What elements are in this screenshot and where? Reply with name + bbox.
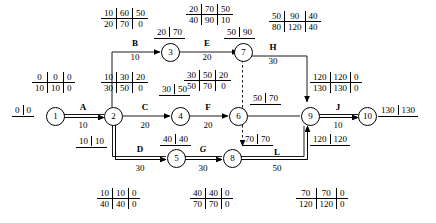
cell-ff: 0	[216, 81, 232, 92]
cell-ef: 90	[285, 11, 306, 22]
cell-ls: 130	[310, 83, 330, 94]
node-latest-time: 120	[331, 134, 350, 144]
activity-label-A: A	[72, 102, 94, 112]
node-time-pair-5: 4040	[160, 134, 191, 146]
node-5[interactable]: 5	[167, 149, 186, 168]
cell-lf: 50	[117, 83, 133, 94]
node-6[interactable]: 6	[229, 107, 248, 126]
cell-tf: 0	[64, 72, 75, 83]
activity-duration-D: 30	[129, 163, 151, 173]
node-latest-time: 130	[399, 105, 418, 115]
node-1[interactable]: 1	[46, 107, 65, 126]
cell-ff: 0	[337, 199, 348, 210]
node-7[interactable]: 7	[234, 43, 253, 62]
cell-ef: 50	[200, 70, 216, 81]
node-time-pair-4: 3050	[159, 84, 190, 96]
node-10[interactable]: 10	[358, 107, 377, 126]
node-8[interactable]: 8	[223, 149, 242, 168]
node-latest-time: 70	[266, 93, 280, 103]
cell-tf: 50	[218, 4, 234, 15]
activity-label-B: B	[124, 38, 146, 48]
cell-ls: 40	[186, 15, 202, 26]
activity-label-D: D	[129, 144, 151, 154]
node-latest-time: 50	[175, 84, 189, 94]
node-earliest-time: 70	[243, 134, 258, 144]
cell-es: 120	[310, 72, 330, 83]
cell-ls: 70	[190, 199, 206, 210]
activity-label-G: G	[192, 144, 214, 154]
cell-ff: 0	[129, 199, 140, 210]
activity-label-F: F	[197, 102, 219, 112]
node-4[interactable]: 4	[171, 107, 190, 126]
cell-ff: 40	[305, 22, 321, 33]
activity-table-E: 20 70 50 40 90 10	[186, 4, 233, 25]
node-latest-time: 0	[24, 105, 34, 115]
node-earliest-time: 10	[77, 136, 92, 146]
node-latest-time: 70	[170, 27, 184, 37]
cell-ef: 70	[316, 188, 337, 199]
cell-es: 10	[97, 188, 113, 199]
node-earliest-time: 130	[379, 105, 399, 115]
cell-ef: 70	[202, 4, 218, 15]
cell-lf: 10	[48, 83, 64, 94]
node-earliest-time: 30	[160, 84, 175, 94]
activity-duration-F: 20	[197, 120, 219, 130]
cell-tf: 40	[305, 11, 321, 22]
cell-ls: 10	[32, 83, 48, 94]
cell-ls: 80	[269, 22, 285, 33]
activity-duration-L: 50	[266, 163, 288, 173]
node-time-pair-10: 130130	[378, 105, 418, 117]
cell-ff: 0	[351, 83, 362, 94]
cell-ff: 0	[133, 83, 149, 94]
node-earliest-time: 50	[225, 27, 240, 37]
cell-lf: 90	[202, 15, 218, 26]
node-earliest-time: 20	[155, 27, 170, 37]
cell-ef: 30	[117, 72, 133, 83]
cell-ls: 40	[97, 199, 113, 210]
cell-es: 70	[296, 188, 316, 199]
cell-ls: 30	[101, 83, 117, 94]
activity-label-L: L	[266, 147, 288, 157]
activity-table-F: 30 50 20 50 70 0	[184, 70, 231, 91]
node-3[interactable]: 3	[161, 43, 180, 62]
activity-table-A: 0 0 0 10 10 0	[32, 72, 75, 93]
node-9[interactable]: 9	[301, 107, 320, 126]
cell-lf: 70	[117, 19, 133, 30]
cell-lf: 70	[200, 81, 216, 92]
activity-duration-A: 10	[72, 120, 94, 130]
cell-es: 0	[32, 72, 48, 83]
cell-ef: 40	[206, 188, 222, 199]
cell-ls: 20	[101, 19, 117, 30]
cell-tf: 20	[216, 70, 232, 81]
activity-duration-E: 20	[196, 52, 218, 62]
cell-ff: 0	[133, 19, 149, 30]
node-earliest-time: 40	[161, 134, 176, 144]
node-2[interactable]: 2	[104, 107, 123, 126]
activity-table-D: 10 10 0 40 40 0	[97, 188, 140, 209]
node-earliest-time: 0	[13, 105, 24, 115]
node-latest-time: 40	[176, 134, 190, 144]
node-time-pair-8: 7070	[242, 134, 273, 146]
cell-es: 10	[101, 8, 117, 19]
activity-label-J: J	[327, 102, 349, 112]
cell-lf: 130	[330, 83, 351, 94]
cell-tf: 20	[133, 72, 149, 83]
node-latest-time: 70	[258, 134, 272, 144]
node-time-pair-7: 5090	[224, 27, 255, 39]
cell-tf: 0	[129, 188, 140, 199]
node-time-pair-6: 5070	[250, 93, 281, 105]
activity-table-L: 70 70 0 120 120 0	[296, 188, 348, 209]
cell-tf: 0	[337, 188, 348, 199]
cell-ef: 60	[117, 8, 133, 19]
activity-duration-J: 10	[327, 120, 349, 130]
cell-lf: 120	[316, 199, 337, 210]
activity-label-H: H	[262, 42, 284, 52]
node-latest-time: 10	[92, 136, 106, 146]
node-earliest-time: 50	[251, 93, 266, 103]
node-time-pair-9: 120120	[310, 134, 350, 146]
cell-ls: 120	[296, 199, 316, 210]
activity-table-H: 50 90 40 80 120 40	[269, 11, 321, 32]
node-time-pair-1: 00	[12, 105, 34, 117]
activity-duration-G: 30	[192, 163, 214, 173]
activity-label-E: E	[196, 38, 218, 48]
